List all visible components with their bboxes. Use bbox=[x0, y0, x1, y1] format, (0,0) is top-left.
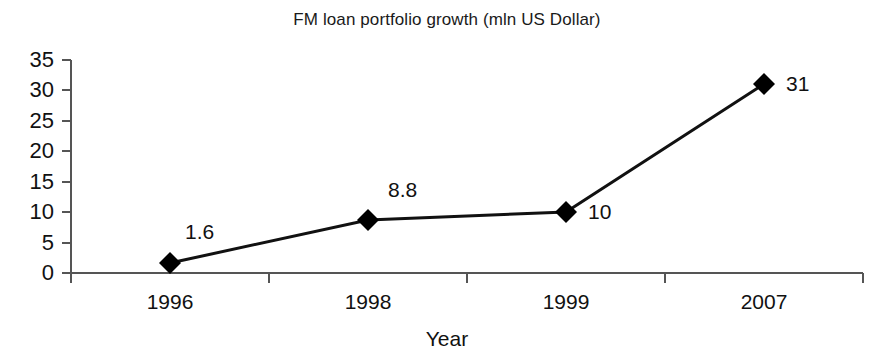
x-axis-label-2007: 2007 bbox=[704, 290, 824, 314]
y-axis-label-30: 30 bbox=[8, 77, 54, 103]
y-axis-label-0: 0 bbox=[8, 260, 54, 286]
data-label-1999: 10 bbox=[588, 200, 611, 224]
y-axis-label-5: 5 bbox=[8, 230, 54, 256]
y-axis-label-25: 25 bbox=[8, 108, 54, 134]
data-point-marker-1999 bbox=[555, 201, 577, 223]
data-label-2007: 31 bbox=[786, 72, 809, 96]
y-axis-label-15: 15 bbox=[8, 169, 54, 195]
y-axis-label-20: 20 bbox=[8, 138, 54, 164]
data-point-marker-1996 bbox=[159, 252, 181, 274]
data-label-1998: 8.8 bbox=[388, 178, 417, 202]
line-chart: FM loan portfolio growth (mln US Dollar)… bbox=[0, 0, 894, 363]
x-axis-title: Year bbox=[0, 327, 894, 351]
y-axis-label-10: 10 bbox=[8, 199, 54, 225]
data-line-series-1 bbox=[170, 84, 764, 263]
x-axis-label-1998: 1998 bbox=[308, 290, 428, 314]
y-axis-label-35: 35 bbox=[8, 47, 54, 73]
data-label-1996: 1.6 bbox=[185, 220, 214, 244]
x-axis-label-1996: 1996 bbox=[110, 290, 230, 314]
data-point-marker-1998 bbox=[357, 209, 379, 231]
data-point-marker-2007 bbox=[753, 73, 775, 95]
x-axis-label-1999: 1999 bbox=[506, 290, 626, 314]
